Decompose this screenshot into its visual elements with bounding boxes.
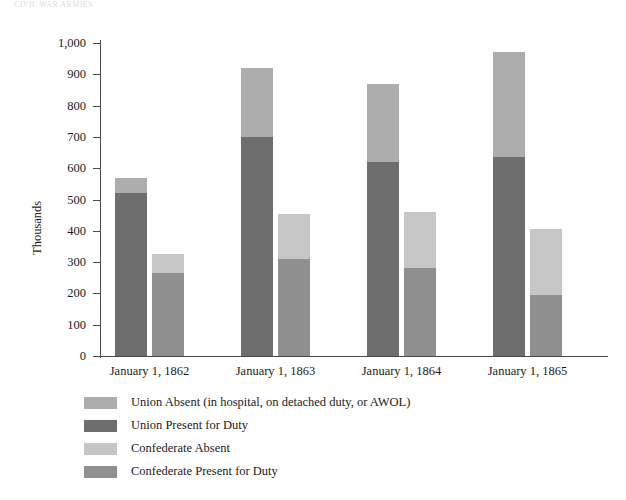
y-axis-tick-label: 200	[26, 287, 86, 300]
bar-segment-present	[241, 137, 273, 356]
y-axis-tick	[93, 231, 100, 232]
y-axis-tick	[93, 106, 100, 107]
legend-swatch-icon	[84, 466, 117, 478]
bar-segment-present	[278, 259, 310, 356]
legend-item-2[interactable]: Confederate Absent	[84, 437, 410, 460]
y-axis-tick-label: 700	[26, 131, 86, 144]
bar-segment-present	[115, 193, 147, 356]
y-axis-tick	[93, 262, 100, 263]
bar-confederate-1	[278, 214, 310, 356]
bar-segment-absent	[152, 254, 184, 273]
bar-union-0	[115, 178, 147, 356]
bar-chart: CIVIL WAR ARMIES Thousands Union Absent …	[0, 0, 626, 500]
legend-label: Confederate Absent	[131, 441, 230, 456]
bar-confederate-0	[152, 254, 184, 356]
legend-swatch-icon	[84, 397, 117, 409]
y-axis-tick	[93, 74, 100, 75]
bar-segment-present	[152, 273, 184, 356]
bar-segment-absent	[493, 52, 525, 157]
cropped-title-remnant: CIVIL WAR ARMIES	[14, 0, 314, 9]
legend-item-3[interactable]: Confederate Present for Duty	[84, 460, 410, 483]
y-axis-tick	[93, 325, 100, 326]
legend-swatch-icon	[84, 420, 117, 432]
y-axis-tick	[93, 293, 100, 294]
legend-item-0[interactable]: Union Absent (in hospital, on detached d…	[84, 391, 410, 414]
y-axis-tick-label: 400	[26, 225, 86, 238]
y-axis-tick	[93, 137, 100, 138]
x-axis-label-3: January 1, 1865	[468, 364, 588, 379]
bar-segment-present	[367, 162, 399, 356]
chart-legend: Union Absent (in hospital, on detached d…	[84, 391, 410, 483]
y-axis-tick-label: 800	[26, 100, 86, 113]
bar-segment-absent	[241, 68, 273, 137]
x-axis-label-2: January 1, 1864	[342, 364, 462, 379]
legend-label: Union Absent (in hospital, on detached d…	[131, 395, 410, 410]
legend-swatch-icon	[84, 443, 117, 455]
bar-segment-present	[404, 268, 436, 356]
y-axis-tick-label: 100	[26, 319, 86, 332]
y-axis-tick-label: 600	[26, 162, 86, 175]
bar-union-3	[493, 52, 525, 356]
bar-segment-absent	[278, 214, 310, 259]
y-axis-tick	[93, 356, 100, 357]
y-axis-tick-label: 900	[26, 68, 86, 81]
y-axis-tick-label: 1,000	[26, 37, 86, 50]
legend-label: Confederate Present for Duty	[131, 464, 278, 479]
bar-segment-absent	[530, 229, 562, 295]
x-axis-label-0: January 1, 1862	[90, 364, 210, 379]
bar-confederate-2	[404, 212, 436, 356]
y-axis-tick	[93, 168, 100, 169]
bar-union-1	[241, 68, 273, 356]
x-axis-label-1: January 1, 1863	[216, 364, 336, 379]
y-axis-tick-label: 300	[26, 256, 86, 269]
bar-segment-absent	[404, 212, 436, 268]
y-axis-tick	[93, 43, 100, 44]
bar-segment-absent	[115, 178, 147, 194]
plot-area	[100, 43, 605, 356]
bar-segment-present	[530, 295, 562, 356]
legend-item-1[interactable]: Union Present for Duty	[84, 414, 410, 437]
bar-union-2	[367, 84, 399, 356]
bar-segment-absent	[367, 84, 399, 162]
legend-label: Union Present for Duty	[131, 418, 248, 433]
y-axis-tick-label: 500	[26, 194, 86, 207]
y-axis-tick-label: 0	[26, 350, 86, 363]
bar-segment-present	[493, 157, 525, 356]
bar-confederate-3	[530, 229, 562, 356]
y-axis-tick	[93, 200, 100, 201]
x-axis-line	[100, 356, 608, 357]
